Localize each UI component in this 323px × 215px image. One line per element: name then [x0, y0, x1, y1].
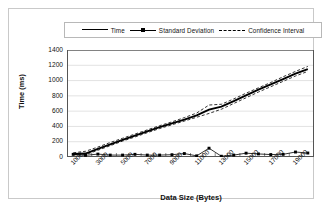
- x-axis-title: Data Size (Bytes): [67, 193, 315, 202]
- y-axis-tick-label: 600: [25, 108, 63, 115]
- y-axis-tick-label: 1200: [25, 62, 63, 69]
- chart-legend: Time Standard Deviation Confidence Inter…: [64, 22, 322, 38]
- legend-label-standard-deviation: Standard Deviation: [159, 27, 214, 34]
- data-point-marker: [208, 147, 211, 150]
- data-point-marker: [183, 152, 186, 155]
- legend-swatch-standard-deviation-marker-icon: [130, 26, 156, 34]
- y-axis-tick-label: 800: [25, 93, 63, 100]
- legend-label-time: Time: [111, 27, 125, 34]
- y-axis-tick-labels: 1400120010008006004002000: [25, 43, 63, 165]
- y-axis-tick-label: 400: [25, 123, 63, 130]
- y-axis-tick-label: 200: [25, 138, 63, 145]
- y-axis-tick-label: 1400: [25, 47, 63, 54]
- plot-border: [68, 51, 314, 157]
- y-axis-tick-label: 1000: [25, 77, 63, 84]
- data-point-marker: [294, 151, 297, 154]
- legend-entry-confidence-interval: Confidence Interval: [219, 26, 304, 34]
- plot-area: [67, 50, 314, 157]
- legend-label-confidence-interval: Confidence Interval: [248, 27, 304, 34]
- y-axis-tick-label: 0: [25, 154, 63, 161]
- x-axis-tick-labels: 1000300050007000900011000130001500017000…: [67, 159, 317, 191]
- plot-svg: [67, 50, 314, 157]
- legend-swatch-confidence-interval-dash-icon: [219, 26, 245, 34]
- legend-entry-time: Time: [82, 26, 125, 34]
- data-point-marker: [158, 154, 161, 157]
- legend-entry-standard-deviation: Standard Deviation: [130, 26, 214, 34]
- chart-frame: Time Standard Deviation Confidence Inter…: [8, 8, 314, 199]
- legend-swatch-time-line-icon: [82, 26, 108, 34]
